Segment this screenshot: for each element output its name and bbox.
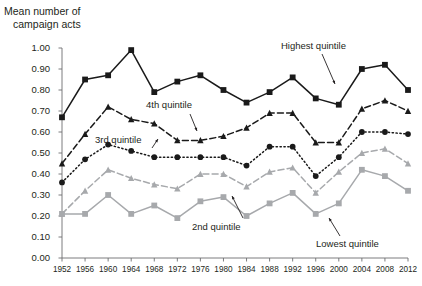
series-line-1 (62, 101, 408, 164)
data-point-marker (313, 96, 319, 102)
data-point-marker (59, 180, 65, 186)
data-point-marker (221, 194, 227, 200)
data-point-marker (105, 72, 111, 78)
data-point-marker (359, 129, 365, 135)
data-point-marker (221, 87, 227, 93)
data-point-marker (336, 102, 342, 108)
data-point-marker (82, 156, 88, 162)
data-point-marker (405, 131, 411, 137)
series-line-3 (62, 149, 408, 214)
data-point-marker (267, 144, 273, 150)
data-point-marker (405, 188, 411, 194)
series-label-3rd-quintile: 3rd quintile (95, 134, 141, 145)
data-point-marker (105, 167, 111, 173)
data-point-marker (359, 106, 365, 112)
data-point-marker (336, 154, 342, 160)
series-lowest-quintile (59, 167, 411, 221)
data-point-marker (244, 163, 250, 169)
data-point-marker (359, 66, 365, 72)
leader-highest-quintile (322, 54, 335, 84)
data-point-marker (82, 77, 88, 83)
data-point-marker (128, 47, 134, 53)
series-label-highest-quintile: Highest quintile (281, 40, 346, 51)
data-point-marker (59, 211, 65, 217)
data-point-marker (243, 183, 249, 189)
data-point-marker (105, 192, 111, 198)
data-point-marker (198, 154, 204, 160)
series-label-lowest-quintile: Lowest quintile (316, 238, 379, 249)
data-point-marker (405, 160, 411, 166)
data-point-marker (359, 167, 365, 173)
data-point-marker (244, 100, 250, 106)
data-point-marker (59, 114, 65, 120)
data-point-marker (313, 211, 319, 217)
data-point-marker (105, 104, 111, 110)
data-point-marker (174, 215, 180, 221)
data-point-marker (128, 211, 134, 217)
data-point-marker (405, 108, 411, 114)
data-point-marker (82, 211, 88, 217)
data-point-marker (82, 188, 88, 194)
data-point-marker (405, 87, 411, 93)
data-point-marker (382, 97, 388, 103)
series-label-4th-quintile: 4th quintile (146, 99, 192, 110)
data-point-marker (198, 198, 204, 204)
data-point-marker (382, 129, 388, 135)
data-point-marker (336, 201, 342, 207)
series-line-4 (62, 170, 408, 218)
data-point-marker (244, 213, 250, 219)
data-point-marker (151, 89, 157, 95)
data-point-marker (243, 125, 249, 131)
data-point-marker (174, 154, 180, 160)
series-label-2nd-quintile: 2nd quintile (192, 221, 241, 232)
data-point-marker (290, 190, 296, 196)
data-point-marker (382, 62, 388, 68)
leader-2nd-quintile (232, 196, 243, 218)
data-point-marker (382, 173, 388, 179)
data-point-marker (313, 173, 319, 179)
data-point-marker (267, 201, 273, 207)
data-point-marker (198, 72, 204, 78)
series-line-0 (62, 50, 408, 117)
data-point-marker (290, 144, 296, 150)
data-point-marker (151, 154, 157, 160)
data-point-marker (151, 203, 157, 209)
data-point-marker (221, 154, 227, 160)
data-point-marker (128, 148, 134, 154)
data-point-marker (267, 89, 273, 95)
data-point-marker (174, 79, 180, 85)
data-point-marker (290, 75, 296, 81)
